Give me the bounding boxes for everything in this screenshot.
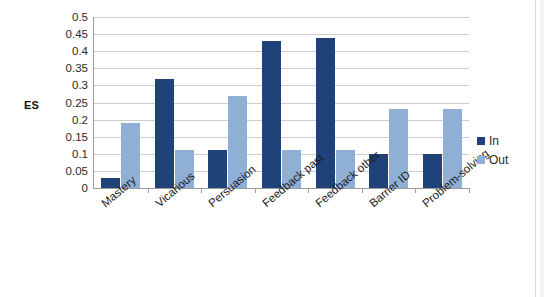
x-axis-tick	[362, 188, 363, 193]
bar-out	[336, 150, 355, 188]
legend-item-out[interactable]: Out	[477, 150, 539, 169]
bar-in	[262, 41, 281, 188]
bar-group	[369, 17, 408, 188]
bar-group	[316, 17, 355, 188]
y-axis-tick: 0.25	[40, 97, 88, 109]
bar-group	[101, 17, 140, 188]
y-axis-tick-labels: 00.050.10.150.20.250.30.350.40.450.5	[40, 10, 88, 196]
y-axis-tick: 0.15	[40, 131, 88, 143]
bar-in	[369, 154, 388, 188]
bar-out	[228, 96, 247, 188]
legend-label: In	[489, 135, 499, 147]
bar-group	[155, 17, 194, 188]
scan-edge-band	[540, 0, 544, 297]
bar-out	[389, 109, 408, 188]
x-axis-tick	[201, 188, 202, 193]
y-axis-tick: 0.2	[40, 114, 88, 126]
bar-group	[423, 17, 462, 188]
bar-group	[208, 17, 247, 188]
x-axis-tick	[308, 188, 309, 193]
y-axis-tick: 0.3	[40, 79, 88, 91]
legend-label: Out	[489, 154, 508, 166]
bar-out	[121, 123, 140, 188]
bar-in	[155, 79, 174, 188]
y-axis-tick: 0.1	[40, 148, 88, 160]
y-axis-tick: 0.35	[40, 62, 88, 74]
bar-group	[262, 17, 301, 188]
x-axis-tick	[148, 188, 149, 193]
legend-swatch-icon	[477, 137, 485, 145]
y-axis-tick: 0.45	[40, 28, 88, 40]
bar-in	[423, 154, 442, 188]
plot-area	[93, 17, 469, 189]
bar-in	[101, 178, 120, 188]
bar-out	[175, 150, 194, 188]
y-axis-tick: 0.5	[40, 11, 88, 23]
bar-out	[282, 150, 301, 188]
x-axis-tick	[415, 188, 416, 193]
legend-item-in[interactable]: In	[477, 131, 539, 150]
y-axis-tick: 0.4	[40, 45, 88, 57]
y-axis-tick: 0.05	[40, 165, 88, 177]
chart-legend: InOut	[477, 131, 539, 169]
bar-chart: ES 00.050.10.150.20.250.30.350.40.450.5 …	[0, 0, 544, 297]
bar-in	[316, 38, 335, 188]
x-axis-tick	[469, 188, 470, 193]
x-axis-tick	[255, 188, 256, 193]
y-axis-title: ES	[24, 99, 39, 111]
legend-swatch-icon	[477, 156, 485, 164]
bar-in	[208, 150, 227, 188]
bar-out	[443, 109, 462, 188]
y-axis-tick: 0	[40, 182, 88, 194]
